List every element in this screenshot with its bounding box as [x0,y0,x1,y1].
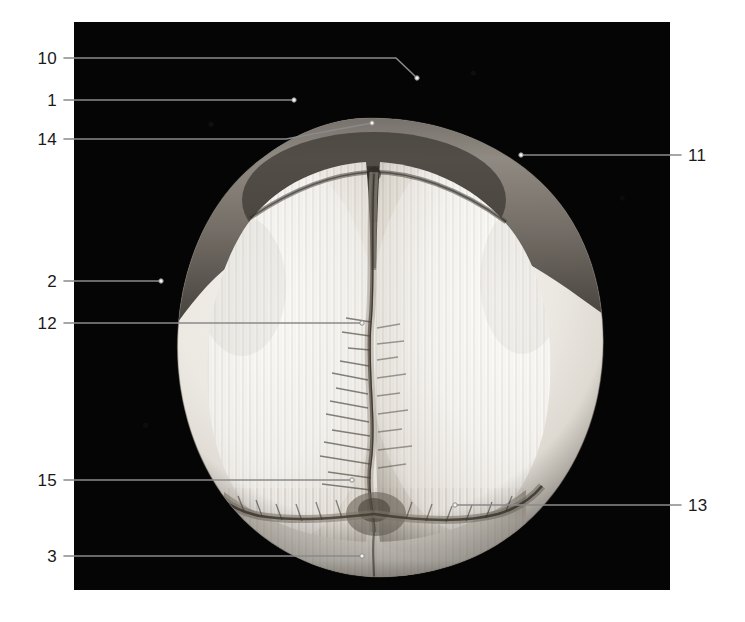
callout-label-1[interactable]: 1 [47,92,57,109]
callout-label-12[interactable]: 12 [37,315,57,332]
callout-label-13[interactable]: 13 [688,497,708,514]
callout-label-10[interactable]: 10 [37,50,57,67]
photograph-plate [74,22,670,590]
callout-label-3[interactable]: 3 [47,548,57,565]
callout-label-11[interactable]: 11 [688,147,706,164]
anatomy-figure: 101142121531113 [0,0,745,622]
callout-label-14[interactable]: 14 [37,131,57,148]
skull-superior-view-svg [74,22,670,590]
callout-label-2[interactable]: 2 [47,273,57,290]
callout-label-15[interactable]: 15 [37,472,57,489]
cranial-vault [74,22,670,590]
skull-specimen [74,22,670,590]
